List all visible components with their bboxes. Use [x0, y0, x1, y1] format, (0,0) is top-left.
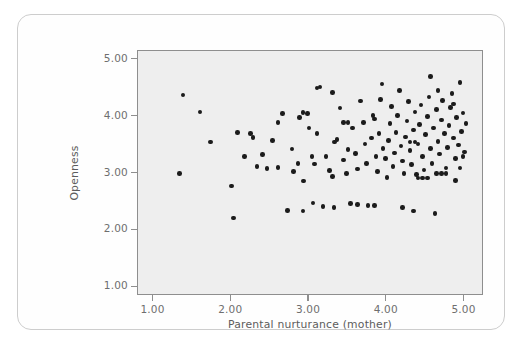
x-axis-tick-marks [137, 295, 483, 301]
data-point [405, 119, 410, 124]
data-point [315, 86, 320, 91]
data-point [454, 115, 459, 120]
data-point [330, 174, 335, 179]
y-axis-tick-labels: 1.002.003.004.005.00 [90, 50, 128, 295]
y-axis-title: Openness [68, 145, 81, 200]
data-point [355, 167, 360, 172]
data-point [397, 88, 402, 93]
x-tick-mark [152, 295, 153, 301]
data-point [386, 138, 391, 143]
data-point [400, 159, 405, 164]
data-point [374, 154, 379, 159]
data-point [276, 120, 281, 125]
data-point [442, 131, 447, 136]
data-point [255, 164, 260, 169]
figure-card: 1.002.003.004.005.00 1.002.003.004.005.0… [17, 14, 505, 330]
data-point [265, 166, 270, 171]
data-point [332, 205, 337, 210]
data-point [453, 178, 458, 183]
data-point [177, 171, 182, 176]
data-point [229, 184, 234, 189]
data-point [381, 146, 386, 151]
data-points-layer [138, 51, 482, 294]
data-point [305, 111, 310, 116]
data-point [458, 80, 463, 85]
data-point [260, 152, 265, 157]
data-point [394, 130, 399, 135]
data-point [346, 147, 351, 152]
data-point [436, 139, 441, 144]
data-point [208, 140, 213, 145]
x-tick-mark [307, 295, 308, 301]
data-point [378, 97, 383, 102]
data-point [338, 106, 343, 111]
data-point [372, 117, 377, 122]
data-point [198, 110, 203, 115]
data-point [433, 211, 438, 216]
data-point [389, 104, 394, 109]
data-point [324, 154, 329, 159]
data-point [409, 162, 414, 167]
data-point [296, 161, 301, 166]
data-point [428, 74, 433, 79]
data-point [321, 204, 326, 209]
x-axis-tick-labels: 1.002.003.004.005.00 [137, 303, 483, 317]
data-point [444, 171, 449, 176]
x-tick-label: 3.00 [296, 303, 320, 315]
y-axis-tick-marks [131, 50, 137, 295]
scatter-plot-panel [137, 50, 483, 295]
data-point [388, 121, 393, 126]
x-tick-mark [230, 295, 231, 301]
data-point [437, 152, 442, 157]
data-point [385, 175, 390, 180]
data-point [346, 120, 351, 125]
y-tick-label: 1.00 [104, 279, 128, 291]
data-point [280, 111, 285, 116]
data-point [350, 126, 355, 131]
data-point [355, 202, 360, 207]
data-point [363, 142, 368, 147]
data-point [411, 209, 416, 214]
data-point [439, 171, 444, 176]
data-point [361, 120, 366, 125]
x-tick-label: 5.00 [451, 303, 475, 315]
data-point [301, 179, 306, 184]
data-point [307, 126, 312, 131]
data-point [419, 103, 424, 108]
data-point [341, 120, 346, 125]
data-point [242, 154, 247, 159]
data-point [434, 107, 439, 112]
data-point [310, 154, 315, 159]
data-point [459, 129, 464, 134]
data-point [297, 115, 302, 120]
data-point [430, 161, 435, 166]
y-tick-mark [131, 58, 137, 59]
data-point [445, 145, 450, 150]
data-point [444, 166, 449, 171]
data-point [461, 154, 466, 159]
data-point [335, 137, 340, 142]
data-point [235, 130, 240, 135]
data-point [181, 93, 186, 98]
y-tick-mark [131, 286, 137, 287]
data-point [439, 118, 444, 123]
data-point [366, 203, 371, 208]
data-point [413, 110, 418, 115]
data-point [383, 156, 388, 161]
y-tick-label: 5.00 [104, 52, 128, 64]
data-point [290, 147, 295, 152]
data-point [417, 122, 422, 127]
data-point [423, 132, 428, 137]
data-point [311, 201, 316, 206]
data-point [372, 203, 377, 208]
data-point [251, 135, 256, 140]
x-tick-label: 4.00 [374, 303, 398, 315]
data-point [440, 98, 445, 103]
y-tick-mark [131, 229, 137, 230]
data-point [391, 164, 396, 169]
data-point [436, 88, 441, 93]
y-tick-label: 3.00 [104, 166, 128, 178]
data-point [358, 99, 363, 104]
data-point [400, 205, 405, 210]
data-point [312, 162, 317, 167]
